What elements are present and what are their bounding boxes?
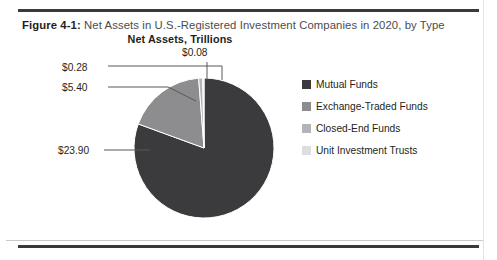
page-right-rule [483,0,484,260]
figure-container: Figure 4-1: Net Assets in U.S.-Registere… [0,0,497,260]
legend-item-label: Exchange-Traded Funds [316,101,428,112]
legend-swatch-icon [302,80,311,89]
legend-swatch-icon [302,146,311,155]
chart-legend: Mutual Funds Exchange-Traded Funds Close… [302,76,428,164]
data-label-closed-end-funds: $0.28 [62,62,88,73]
legend-item-label: Mutual Funds [316,79,378,90]
legend-swatch-icon [302,102,311,111]
legend-item-label: Unit Investment Trusts [316,145,417,156]
pie-slice-group [134,78,274,218]
data-label-exchange-traded-funds: $5.40 [62,82,88,93]
legend-swatch-icon [302,124,311,133]
data-label-unit-investment-trusts: $0.08 [182,47,208,58]
legend-item-label: Closed-End Funds [316,123,400,134]
legend-item-unit-investment-trusts: Unit Investment Trusts [302,142,428,159]
legend-item-mutual-funds: Mutual Funds [302,76,428,93]
legend-item-closed-end-funds: Closed-End Funds [302,120,428,137]
legend-item-exchange-traded-funds: Exchange-Traded Funds [302,98,428,115]
figure-bottom-rule [18,245,479,248]
data-label-mutual-funds: $23.90 [58,145,89,156]
figure-bottom-hairline [6,240,483,241]
